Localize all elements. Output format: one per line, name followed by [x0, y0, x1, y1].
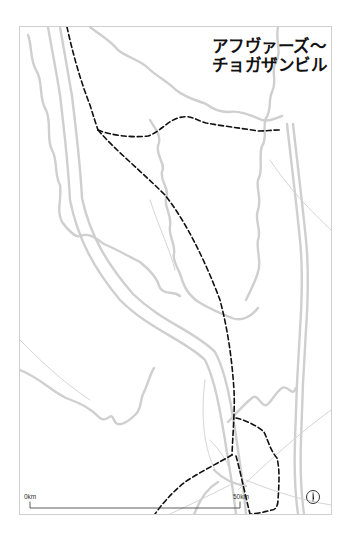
- roads: [20, 160, 331, 514]
- map-canvas: [0, 0, 351, 543]
- scale-start-label: 0km: [24, 493, 36, 500]
- map-title: アフヴァーズ〜 チョガザンビル: [212, 37, 328, 75]
- map-title-line1: アフヴァーズ〜: [212, 37, 328, 56]
- rivers: [20, 27, 308, 515]
- map-title-line2: チョガザンビル: [212, 56, 328, 75]
- north-arrow-icon: [306, 490, 320, 504]
- scale-end-label: 50km: [233, 493, 249, 500]
- scale-bar: [30, 502, 240, 508]
